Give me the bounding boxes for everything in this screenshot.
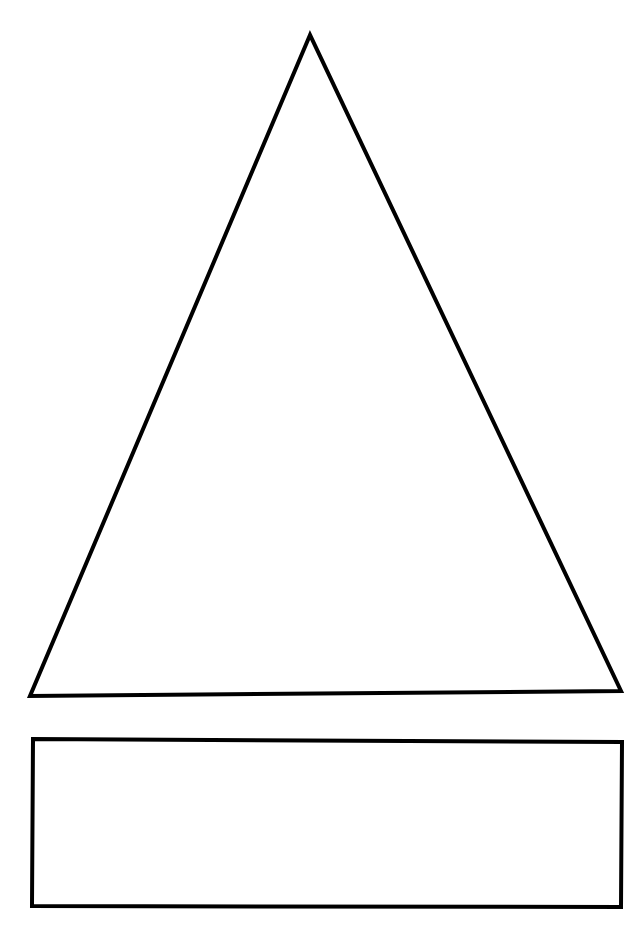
triangle-shape (30, 35, 621, 696)
rectangle-shape (32, 739, 622, 907)
diagram-canvas (0, 0, 642, 925)
